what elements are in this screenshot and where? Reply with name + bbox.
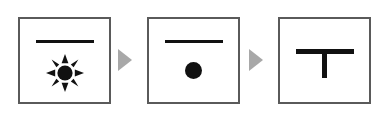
panel-1 — [18, 17, 111, 104]
filled-circle-icon — [185, 62, 202, 79]
sun-icon — [46, 54, 84, 92]
t-shape-stem-icon — [322, 53, 327, 78]
horizontal-bar-icon — [36, 40, 94, 43]
panel-1-content — [20, 19, 109, 102]
panel-2 — [147, 17, 240, 104]
triangle-right-icon — [249, 49, 263, 71]
triangle-right-icon — [118, 49, 132, 71]
horizontal-bar-icon — [165, 40, 223, 43]
panel-3 — [278, 17, 371, 104]
panel-2-content — [149, 19, 238, 102]
icon-sequence-figure — [0, 0, 389, 114]
panel-3-content — [280, 19, 369, 102]
